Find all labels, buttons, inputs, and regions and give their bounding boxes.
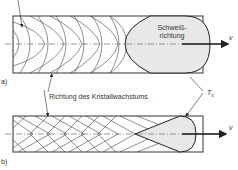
weld-direction-line2: richtung [152, 32, 192, 40]
panel-a [5, 0, 228, 92]
weld-solidification-diagram [0, 0, 238, 170]
solidus-label: Ts [207, 89, 214, 99]
weld-direction-line1: Schweiß- [152, 24, 192, 32]
solidus-subscript: s [211, 92, 214, 98]
panel-b-label: b) [1, 158, 7, 166]
crystal-growth-label: Richtung des Kristallwachstums [49, 93, 148, 101]
velocity-label-b: v [229, 124, 233, 132]
panel-a-label: a) [1, 78, 7, 86]
weld-direction-label: Schweiß- richtung [152, 24, 192, 39]
velocity-label-a: v [229, 34, 233, 42]
